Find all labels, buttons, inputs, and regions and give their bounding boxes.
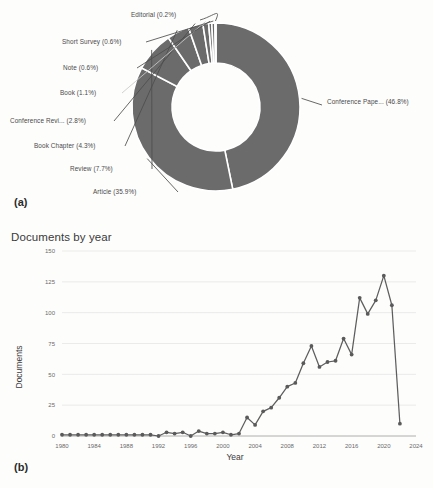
data-point-marker[interactable] — [100, 433, 104, 437]
x-axis-tick-label: 2020 — [377, 443, 391, 449]
donut-slice[interactable] — [132, 68, 233, 191]
donut-label-note: Note (0.6%) — [63, 65, 98, 71]
data-point-marker[interactable] — [124, 433, 128, 437]
data-point-marker[interactable] — [157, 434, 161, 438]
y-axis-tick-label: 0 — [52, 433, 56, 439]
y-axis-label: Documents — [14, 346, 24, 389]
donut-slice[interactable] — [216, 23, 300, 189]
y-axis-tick-label: 100 — [45, 310, 56, 316]
donut-leader-line — [302, 98, 322, 105]
data-point-marker[interactable] — [253, 423, 257, 427]
data-point-marker[interactable] — [261, 409, 265, 413]
data-point-marker[interactable] — [390, 303, 394, 307]
y-axis-tick-label: 125 — [45, 279, 56, 285]
data-point-marker[interactable] — [269, 406, 273, 410]
data-point-marker[interactable] — [334, 359, 338, 363]
x-axis-tick-label: 2000 — [216, 443, 230, 449]
x-axis-tick-label: 1992 — [152, 443, 166, 449]
y-axis-tick-label: 25 — [48, 402, 55, 408]
x-axis-tick-label: 2024 — [409, 443, 423, 449]
data-point-marker[interactable] — [301, 361, 305, 365]
data-point-marker[interactable] — [350, 353, 354, 357]
donut-label-review: Review (7.7%) — [70, 166, 113, 172]
grid-lines — [62, 251, 416, 405]
donut-leader-line — [200, 13, 218, 21]
line-chart-svg: 0255075100125150 19801984198819921996200… — [0, 215, 433, 488]
x-axis-tick-label: 1984 — [88, 443, 102, 449]
data-point-marker[interactable] — [229, 433, 233, 437]
data-point-marker[interactable] — [149, 433, 153, 437]
panel-b-line-chart: Documents by year 0255075100125150 19801… — [0, 215, 433, 488]
y-axis-ticks: 0255075100125150 — [45, 248, 56, 439]
panel-label-a: (a) — [14, 196, 27, 208]
data-point-marker[interactable] — [133, 433, 137, 437]
x-axis-tick-label: 2016 — [345, 443, 359, 449]
y-axis-tick-label: 75 — [48, 341, 55, 347]
x-axis-ticks: 1980198419881992199620002004200820122016… — [55, 443, 423, 449]
data-point-marker[interactable] — [245, 416, 249, 420]
data-point-marker[interactable] — [189, 434, 193, 438]
x-axis-tick-label: 2008 — [281, 443, 295, 449]
data-point-marker[interactable] — [84, 433, 88, 437]
data-point-marker[interactable] — [108, 433, 112, 437]
x-axis-tick-label: 1988 — [120, 443, 134, 449]
data-point-marker[interactable] — [173, 432, 177, 436]
documents-series-line — [62, 276, 400, 436]
data-point-marker[interactable] — [318, 365, 322, 369]
donut-chart-svg — [0, 0, 433, 215]
data-point-marker[interactable] — [141, 433, 145, 437]
x-axis-tick-label: 1980 — [55, 443, 69, 449]
x-axis-label: Year — [226, 452, 243, 462]
data-point-marker[interactable] — [181, 430, 185, 434]
data-point-marker[interactable] — [205, 432, 209, 436]
panel-a-donut-chart: Editorial (0.2%) Short Survey (0.6%) Not… — [0, 0, 433, 215]
donut-label-book: Book (1.1%) — [60, 90, 96, 96]
data-point-marker[interactable] — [342, 337, 346, 341]
data-point-marker[interactable] — [165, 430, 169, 434]
donut-slices — [132, 23, 300, 191]
documents-series-markers — [60, 274, 402, 438]
figure-root: Editorial (0.2%) Short Survey (0.6%) Not… — [0, 0, 433, 488]
donut-label-article: Article (35.9%) — [93, 189, 136, 195]
data-point-marker[interactable] — [310, 344, 314, 348]
donut-label-book-chapter: Book Chapter (4.3%) — [34, 143, 96, 149]
donut-label-conference-review: Conference Revi... (2.8%) — [10, 118, 86, 124]
data-point-marker[interactable] — [326, 360, 330, 364]
x-axis-tick-label: 1996 — [184, 443, 198, 449]
y-axis-tick-label: 50 — [48, 372, 55, 378]
donut-label-conference-paper: Conference Pape... (46.8%) — [327, 99, 409, 105]
data-point-marker[interactable] — [221, 430, 225, 434]
data-point-marker[interactable] — [116, 433, 120, 437]
data-point-marker[interactable] — [293, 381, 297, 385]
data-point-marker[interactable] — [60, 433, 64, 437]
data-point-marker[interactable] — [237, 432, 241, 436]
donut-slice[interactable] — [215, 23, 216, 63]
data-point-marker[interactable] — [382, 274, 386, 278]
y-axis-tick-label: 150 — [45, 248, 56, 254]
data-point-marker[interactable] — [374, 298, 378, 302]
data-point-marker[interactable] — [398, 422, 402, 426]
data-point-marker[interactable] — [92, 433, 96, 437]
data-point-marker[interactable] — [197, 429, 201, 433]
data-point-marker[interactable] — [76, 433, 80, 437]
donut-label-short-survey: Short Survey (0.6%) — [62, 39, 121, 45]
data-point-marker[interactable] — [285, 385, 289, 389]
data-point-marker[interactable] — [358, 296, 362, 300]
data-point-marker[interactable] — [277, 396, 281, 400]
data-point-marker[interactable] — [366, 312, 370, 316]
x-axis-tick-label: 2012 — [313, 443, 327, 449]
data-point-marker[interactable] — [213, 432, 217, 436]
donut-label-editorial: Editorial (0.2%) — [131, 12, 176, 18]
panel-label-b: (b) — [14, 461, 28, 473]
x-axis-tick-label: 2004 — [248, 443, 262, 449]
data-point-marker[interactable] — [68, 433, 72, 437]
